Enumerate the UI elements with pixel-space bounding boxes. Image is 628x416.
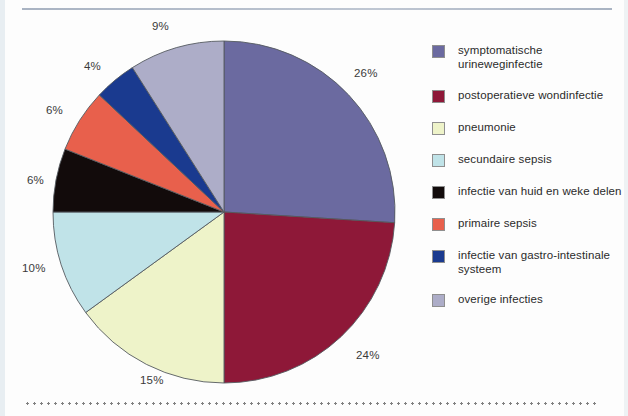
legend-item-label: infectie van gastro-intestinale systeem bbox=[458, 249, 622, 276]
legend-item-label: pneumonie bbox=[458, 121, 516, 135]
pie-chart: 26%24%15%10%6%6%4%9% bbox=[0, 0, 440, 416]
legend-swatch-gastro-intestinale-systeem bbox=[432, 250, 445, 263]
page-edge-right bbox=[624, 0, 628, 416]
legend-item-label: overige infecties bbox=[458, 293, 543, 307]
pie-percentage-label: 26% bbox=[354, 68, 378, 80]
pie-percentage-label: 6% bbox=[27, 175, 44, 187]
pie-percentage-label: 4% bbox=[84, 61, 101, 73]
chart-legend: symptomatische urineweginfectiepostopera… bbox=[432, 44, 622, 325]
legend-item[interactable]: symptomatische urineweginfectie bbox=[432, 44, 622, 71]
legend-swatch-infectie-huid-weke-delen bbox=[432, 186, 445, 199]
legend-item-label: secundaire sepsis bbox=[458, 153, 552, 167]
legend-swatch-postoperatieve-wondinfectie bbox=[432, 90, 445, 103]
pie-percentage-label: 6% bbox=[46, 105, 63, 117]
pie-percentage-label: 24% bbox=[356, 350, 380, 362]
page-canvas: 26%24%15%10%6%6%4%9% symptomatische urin… bbox=[0, 0, 628, 416]
legend-swatch-symptomatische-urineweginfectie bbox=[432, 45, 445, 58]
legend-item-label: primaire sepsis bbox=[458, 217, 537, 231]
legend-item[interactable]: overige infecties bbox=[432, 293, 622, 307]
legend-item[interactable]: primaire sepsis bbox=[432, 217, 622, 231]
legend-item[interactable]: secundaire sepsis bbox=[432, 153, 622, 167]
pie-percentage-label: 9% bbox=[152, 21, 169, 33]
legend-item-label: symptomatische urineweginfectie bbox=[458, 44, 622, 71]
legend-item-label: postoperatieve wondinfectie bbox=[458, 89, 603, 103]
pie-slice-group bbox=[53, 41, 395, 383]
legend-item[interactable]: infectie van gastro-intestinale systeem bbox=[432, 249, 622, 276]
pie-percentage-label: 15% bbox=[140, 375, 164, 387]
legend-item[interactable]: infectie van huid en weke delen bbox=[432, 185, 622, 199]
pie-percentage-label: 10% bbox=[22, 263, 46, 275]
legend-swatch-primaire-sepsis bbox=[432, 218, 445, 231]
legend-swatch-secundaire-sepsis bbox=[432, 154, 445, 167]
legend-item[interactable]: pneumonie bbox=[432, 121, 622, 135]
legend-item-label: infectie van huid en weke delen bbox=[458, 185, 622, 199]
legend-swatch-overige-infecties bbox=[432, 294, 445, 307]
legend-item[interactable]: postoperatieve wondinfectie bbox=[432, 89, 622, 103]
legend-swatch-pneumonie bbox=[432, 122, 445, 135]
